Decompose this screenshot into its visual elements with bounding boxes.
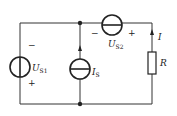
- voltage-source-us2: − + US2: [91, 15, 136, 50]
- us2-plus: +: [128, 28, 136, 38]
- i-label: I: [157, 32, 162, 42]
- junction-bottom: [78, 102, 82, 106]
- us2-label: US2: [108, 39, 124, 50]
- us2-minus: −: [91, 28, 99, 38]
- junction-top: [78, 21, 82, 25]
- voltage-source-us1: − + US1: [10, 40, 48, 88]
- arrow-up-icon: [78, 45, 82, 51]
- r-label: R: [159, 58, 167, 68]
- us1-minus: −: [28, 40, 36, 50]
- us1-label: US1: [32, 63, 48, 74]
- current-source-is: IS: [70, 45, 100, 79]
- is-label: IS: [91, 67, 100, 78]
- current-arrow-icon: [150, 29, 154, 35]
- resistor-r: R I: [148, 29, 167, 74]
- us1-plus: +: [28, 78, 36, 88]
- circuit-diagram: − + US1 IS − + US2 R I: [0, 0, 177, 116]
